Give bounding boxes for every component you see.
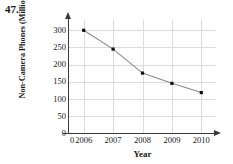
y-axis-title: Non-Camera Phones (Millions) bbox=[18, 3, 27, 99]
x-axis-tick-label: 2010 bbox=[193, 136, 210, 145]
data-point-marker bbox=[141, 71, 144, 74]
x-axis-tick-label: 2007 bbox=[105, 136, 122, 145]
x-axis-tick-label: 2009 bbox=[163, 136, 180, 145]
x-axis-tick-label: 0 bbox=[70, 136, 74, 145]
y-axis-tick-label: 100 bbox=[42, 95, 66, 104]
y-axis-tick-label: 250 bbox=[42, 43, 66, 52]
data-markers bbox=[82, 29, 203, 95]
y-axis-tick-label: 50 bbox=[42, 112, 66, 121]
data-point-marker bbox=[170, 82, 173, 85]
x-axis-title: Year bbox=[69, 149, 216, 159]
y-axis-tick-label: 150 bbox=[42, 77, 66, 86]
data-point-marker bbox=[112, 48, 115, 51]
x-axis-tick-label: 2006 bbox=[75, 136, 92, 145]
x-axis-tick-label: 2008 bbox=[134, 136, 151, 145]
data-series-layer bbox=[69, 20, 216, 133]
data-point-marker bbox=[200, 91, 203, 94]
data-point-marker bbox=[82, 29, 85, 32]
data-line bbox=[84, 30, 202, 92]
plot-area bbox=[69, 20, 216, 133]
line-chart-figure: 050100150200250300 020062007200820092010… bbox=[0, 0, 233, 164]
y-axis-tick-label: 300 bbox=[42, 26, 66, 35]
y-axis-tick-label: 200 bbox=[42, 60, 66, 69]
x-axis-tick-labels: 020062007200820092010 bbox=[0, 136, 233, 148]
